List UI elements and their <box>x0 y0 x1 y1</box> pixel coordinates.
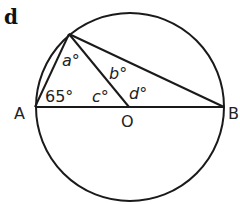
circle-diagram: d A B O 65° a° b° c° d° <box>0 0 240 204</box>
point-label-B: B <box>228 104 239 123</box>
angle-label-d: d° <box>129 84 147 103</box>
angle-label-given: 65° <box>45 87 73 106</box>
angle-label-a: a° <box>62 51 80 70</box>
angle-label-c: c° <box>92 87 109 106</box>
point-label-A: A <box>14 104 25 123</box>
point-label-O: O <box>121 112 134 131</box>
angle-label-b: b° <box>109 64 127 83</box>
part-label: d <box>4 5 18 29</box>
